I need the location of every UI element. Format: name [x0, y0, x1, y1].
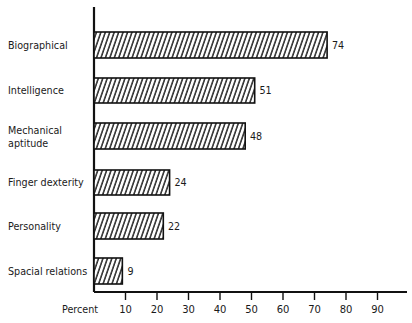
category-label-mechanical-aptitude-line1: Mechanical: [8, 125, 62, 136]
x-tick-label-50: 50: [245, 304, 258, 315]
category-label-biographical: Biographical: [8, 40, 68, 51]
x-tick-label-60: 60: [277, 304, 290, 315]
x-tick-labels-group: 10 20 30 40 50 60 70 80 90: [119, 304, 384, 315]
value-label-finger-dexterity: 24: [175, 177, 187, 188]
chart-canvas: 74 51 48 24 22 9 Biographical Intelligen…: [0, 0, 412, 323]
x-tick-label-10: 10: [119, 304, 132, 315]
bar-finger-dexterity[interactable]: [94, 170, 170, 195]
category-label-personality: Personality: [8, 221, 61, 232]
category-label-mechanical-aptitude-line2: aptitude: [8, 138, 48, 149]
bar-intelligence[interactable]: [94, 78, 255, 103]
bar-personality[interactable]: [94, 213, 163, 239]
x-tick-label-80: 80: [340, 304, 353, 315]
value-label-personality: 22: [168, 221, 180, 232]
value-label-spacial-relations: 9: [128, 266, 134, 277]
bar-chart: 74 51 48 24 22 9 Biographical Intelligen…: [0, 0, 412, 323]
category-label-finger-dexterity: Finger dexterity: [8, 177, 84, 188]
x-tick-label-30: 30: [182, 304, 195, 315]
x-axis-title: Percent: [62, 304, 98, 315]
x-tick-label-40: 40: [214, 304, 227, 315]
bar-mechanical-aptitude[interactable]: [94, 123, 245, 149]
x-tick-label-90: 90: [371, 304, 384, 315]
bar-biographical[interactable]: [94, 32, 327, 58]
x-tick-label-70: 70: [308, 304, 321, 315]
value-label-mechanical-aptitude: 48: [250, 131, 262, 142]
value-label-biographical: 74: [332, 40, 344, 51]
bar-spacial-relations[interactable]: [94, 258, 122, 284]
x-tick-label-20: 20: [151, 304, 164, 315]
category-label-spacial-relations: Spacial relations: [8, 266, 87, 277]
category-label-intelligence: Intelligence: [8, 85, 64, 96]
value-label-intelligence: 51: [260, 85, 272, 96]
